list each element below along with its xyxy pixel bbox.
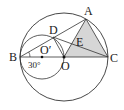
label-c: C: [110, 51, 118, 65]
label-e: E: [76, 35, 83, 49]
label-d: D: [49, 23, 58, 37]
label-o: O: [61, 59, 70, 73]
geometry-diagram: A B C D E O O′ 30°: [0, 0, 124, 110]
label-b: B: [9, 50, 17, 64]
angle-arc-marker: [29, 52, 30, 57]
shaded-triangle-aoc: [64, 19, 108, 57]
label-o-prime: O′: [40, 43, 52, 57]
label-a: A: [84, 4, 93, 18]
label-angle-30: 30°: [28, 60, 41, 70]
